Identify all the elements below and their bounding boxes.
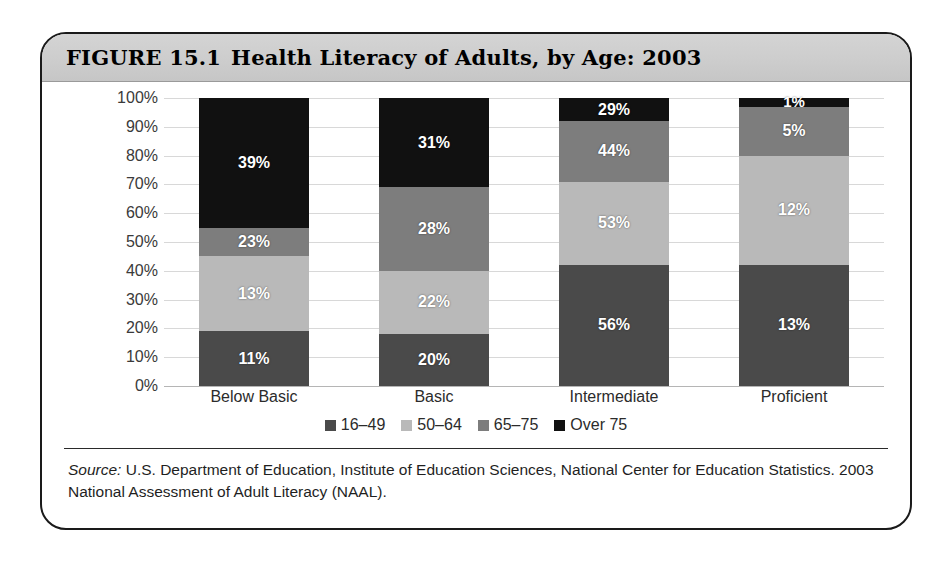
bar-segment[interactable]: 28%	[379, 187, 489, 271]
bar-segment-label: 13%	[778, 317, 810, 333]
y-axis-tick-label: 100%	[117, 89, 158, 107]
y-axis-tick-label: 30%	[126, 291, 158, 309]
legend-item[interactable]: Over 75	[554, 416, 627, 434]
x-axis-categories: Below BasicBasicIntermediateProficient	[164, 388, 884, 406]
bar-segment-label: 12%	[778, 202, 810, 218]
bar-segment[interactable]: 31%	[379, 98, 489, 187]
figure-title: FIGURE 15.1Health Literacy of Adults, by…	[66, 45, 702, 70]
bar-segment-label: 22%	[418, 294, 450, 310]
x-axis-category-label: Proficient	[719, 388, 869, 406]
legend-swatch-icon	[478, 420, 489, 431]
bar-column[interactable]: 31%28%22%20%	[379, 98, 489, 386]
y-axis-tick-label: 60%	[126, 204, 158, 222]
source-divider	[64, 448, 888, 449]
y-axis-tick-label: 80%	[126, 147, 158, 165]
legend-item[interactable]: 65–75	[478, 416, 539, 434]
source-label: Source:	[68, 461, 121, 478]
y-axis-tick-label: 50%	[126, 233, 158, 251]
bar-segment-label: 23%	[238, 234, 270, 250]
figure-card: FIGURE 15.1Health Literacy of Adults, by…	[40, 32, 912, 530]
bar-column[interactable]: 1%5%12%13%	[739, 98, 849, 386]
bar-segment[interactable]: 53%	[559, 182, 669, 266]
chart-legend: 16–4950–6465–75Over 75	[42, 416, 910, 434]
y-axis-tick-label: 20%	[126, 319, 158, 337]
bar-segment-label: 5%	[782, 123, 805, 139]
bar-segment[interactable]: 44%	[559, 121, 669, 181]
bar-segment-label: 53%	[598, 215, 630, 231]
bar-segment[interactable]: 23%	[199, 228, 309, 257]
bar-segment[interactable]: 11%	[199, 331, 309, 386]
source-text: U.S. Department of Education, Institute …	[68, 461, 874, 500]
legend-swatch-icon	[325, 420, 336, 431]
bar-segment[interactable]: 13%	[199, 256, 309, 331]
bar-segment-label: 11%	[238, 351, 269, 367]
bar-segment[interactable]: 1%	[739, 98, 849, 107]
y-axis-tick-label: 0%	[135, 377, 158, 395]
bar-segment[interactable]: 56%	[559, 265, 669, 386]
y-axis-tick-label: 70%	[126, 175, 158, 193]
legend-label: Over 75	[570, 416, 627, 434]
figure-header-band: FIGURE 15.1Health Literacy of Adults, by…	[42, 34, 910, 82]
bar-segment-label: 56%	[598, 317, 630, 333]
x-axis-category-label: Basic	[359, 388, 509, 406]
legend-label: 65–75	[494, 416, 539, 434]
y-axis-tick-label: 90%	[126, 118, 158, 136]
bar-column[interactable]: 39%23%13%11%	[199, 98, 309, 386]
bar-segment[interactable]: 13%	[739, 265, 849, 386]
bars-layer: 39%23%13%11%31%28%22%20%29%44%53%56%1%5%…	[164, 98, 884, 386]
legend-swatch-icon	[554, 420, 565, 431]
source-note: Source: U.S. Department of Education, In…	[68, 459, 884, 503]
legend-item[interactable]: 16–49	[325, 416, 386, 434]
bar-segment[interactable]: 22%	[379, 271, 489, 334]
bar-segment[interactable]: 39%	[199, 98, 309, 228]
bar-segment-label: 28%	[418, 221, 450, 237]
bar-segment-label: 31%	[418, 135, 450, 151]
legend-label: 16–49	[341, 416, 386, 434]
chart-plot-region: 0%10%20%30%40%50%60%70%80%90%100% 39%23%…	[42, 82, 910, 412]
bar-segment-label: 29%	[598, 102, 630, 118]
bar-segment-label: 39%	[238, 155, 270, 171]
bar-segment-label: 13%	[238, 286, 270, 302]
bar-segment[interactable]: 5%	[739, 107, 849, 156]
y-axis-tick-label: 10%	[126, 348, 158, 366]
legend-item[interactable]: 50–64	[401, 416, 462, 434]
x-axis-category-label: Below Basic	[179, 388, 329, 406]
legend-label: 50–64	[417, 416, 462, 434]
bar-segment-label: 20%	[418, 352, 450, 368]
figure-title-text: Health Literacy of Adults, by Age: 2003	[231, 45, 701, 70]
y-axis-tick-label: 40%	[126, 262, 158, 280]
bar-segment[interactable]: 29%	[559, 98, 669, 121]
legend-swatch-icon	[401, 420, 412, 431]
bar-segment-label: 44%	[598, 143, 630, 159]
y-axis: 0%10%20%30%40%50%60%70%80%90%100%	[108, 98, 164, 386]
x-axis-category-label: Intermediate	[539, 388, 689, 406]
gridline	[164, 386, 884, 387]
bar-segment[interactable]: 12%	[739, 156, 849, 265]
figure-number: FIGURE 15.1	[66, 45, 221, 70]
bar-segment[interactable]: 20%	[379, 334, 489, 386]
bar-column[interactable]: 29%44%53%56%	[559, 98, 669, 386]
